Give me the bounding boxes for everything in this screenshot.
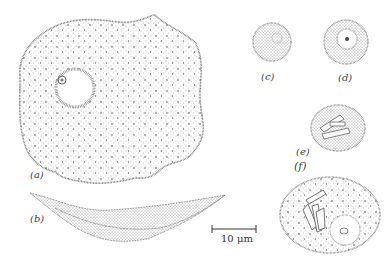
cell-b — [30, 193, 225, 241]
cell-a — [20, 15, 204, 183]
cell-e — [311, 105, 365, 151]
cell-c — [253, 23, 291, 61]
cell-f — [280, 177, 380, 253]
figure-canvas — [0, 0, 385, 259]
scale-bar — [212, 225, 256, 233]
panel-label-a: (a) — [30, 170, 44, 180]
panel-label-d: (d) — [338, 73, 352, 83]
panel-label-b: (b) — [30, 214, 44, 224]
panel-label-e: (e) — [296, 147, 310, 157]
nucleus-f — [330, 215, 360, 245]
cell-d — [324, 20, 368, 64]
nucleus-a — [56, 69, 94, 107]
panel-label-c: (c) — [261, 72, 274, 82]
panel-label-f: (f) — [294, 161, 307, 172]
scale-bar-label: 10 μm — [221, 234, 253, 244]
